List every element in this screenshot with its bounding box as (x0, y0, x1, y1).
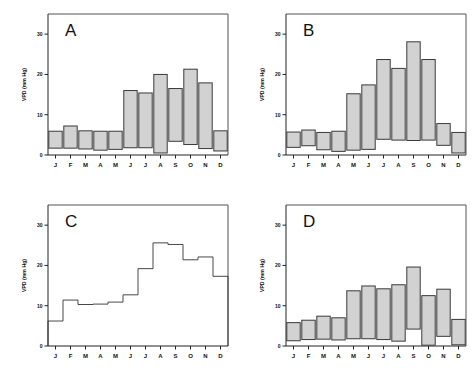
y-tick-label: 10 (37, 112, 43, 118)
x-tick-label-3: A (98, 353, 103, 359)
x-tick-label-0: J (54, 353, 57, 359)
bar-F-1 (64, 126, 77, 148)
x-tick-label-2: M (321, 353, 326, 359)
y-axis-label: VPD (mm Hg) (21, 259, 27, 292)
x-tick-label-2: M (83, 162, 88, 168)
x-tick-label-10: N (203, 162, 207, 168)
bar-J-0 (49, 131, 62, 148)
x-tick-label-3: A (336, 162, 341, 168)
chart-panel-d: 0102030VPD (mm Hg)JFMAMJJASONDD (238, 191, 476, 382)
x-tick-label-8: S (411, 353, 415, 359)
y-tick-label: 0 (40, 152, 43, 158)
y-tick-label: 20 (275, 262, 281, 268)
x-tick-label-5: J (367, 353, 370, 359)
bar-J-6 (377, 60, 390, 140)
y-tick-label: 20 (275, 71, 281, 77)
bar-F-1 (302, 130, 315, 146)
y-tick-label: 0 (278, 343, 281, 349)
bar-S-8 (169, 89, 182, 142)
bar-J-0 (287, 132, 300, 147)
bar-D-11 (452, 319, 465, 344)
figure-vpd-monthly-panels: 0102030VPD (mm Hg)JFMAMJJASONDA 0102030V… (0, 0, 476, 382)
bar-D-11 (214, 131, 227, 151)
bar-N-10 (437, 124, 450, 146)
x-tick-label-7: A (396, 162, 401, 168)
x-tick-label-6: J (382, 353, 385, 359)
x-tick-label-0: J (54, 162, 57, 168)
y-tick-label: 0 (40, 343, 43, 349)
x-tick-label-10: N (441, 353, 445, 359)
x-tick-label-4: M (351, 353, 356, 359)
x-tick-label-3: A (336, 353, 341, 359)
y-tick-label: 10 (275, 112, 281, 118)
y-axis-label: VPD (mm Hg) (259, 68, 265, 101)
bar-M-2 (317, 132, 330, 149)
bar-F-1 (302, 320, 315, 339)
bar-A-3 (94, 131, 107, 150)
bar-M-2 (317, 316, 330, 339)
x-tick-label-10: N (441, 162, 445, 168)
plot-area-a: 0102030VPD (mm Hg)JFMAMJJASONDA (0, 0, 238, 191)
x-tick-label-9: O (426, 353, 431, 359)
x-tick-label-7: A (396, 353, 401, 359)
bar-J-0 (287, 323, 300, 341)
x-tick-label-2: M (321, 162, 326, 168)
x-tick-label-6: J (144, 353, 147, 359)
x-tick-label-9: O (188, 162, 193, 168)
panel-letter-d: D (303, 212, 315, 231)
x-tick-label-11: D (456, 353, 461, 359)
x-tick-label-1: F (307, 162, 311, 168)
bar-A-7 (392, 285, 405, 341)
panel-letter-c: C (65, 212, 77, 231)
bar-O-9 (184, 69, 197, 144)
bar-O-9 (422, 60, 435, 141)
x-tick-label-11: D (456, 162, 461, 168)
y-axis-label: VPD (mm Hg) (259, 259, 265, 292)
x-tick-label-11: D (218, 162, 223, 168)
bar-M-4 (347, 94, 360, 150)
y-tick-label: 30 (37, 31, 43, 37)
y-axis-label: VPD (mm Hg) (21, 68, 27, 101)
x-tick-label-5: J (367, 162, 370, 168)
chart-panel-a: 0102030VPD (mm Hg)JFMAMJJASONDA (0, 0, 238, 191)
bar-J-6 (139, 93, 152, 148)
bar-S-8 (407, 42, 420, 141)
x-tick-label-2: M (83, 353, 88, 359)
bar-M-4 (109, 131, 122, 149)
x-tick-label-7: A (158, 162, 163, 168)
plot-area-b: 0102030VPD (mm Hg)JFMAMJJASONDB (238, 0, 476, 191)
x-tick-label-10: N (203, 353, 207, 359)
bar-A-7 (392, 68, 405, 140)
x-tick-label-8: S (173, 353, 177, 359)
x-tick-label-0: J (292, 162, 295, 168)
bar-M-4 (347, 291, 360, 339)
plot-area-d: 0102030VPD (mm Hg)JFMAMJJASONDD (238, 191, 476, 382)
bar-S-8 (407, 267, 420, 329)
x-tick-label-5: J (129, 353, 132, 359)
bar-M-2 (79, 131, 92, 149)
bar-N-10 (199, 83, 212, 149)
x-tick-label-1: F (307, 353, 311, 359)
chart-panel-c: 0102030VPD (mm Hg)JFMAMJJASONDC (0, 191, 238, 382)
bar-A-3 (332, 131, 345, 151)
y-tick-label: 0 (278, 152, 281, 158)
bar-D-11 (452, 132, 465, 153)
y-tick-label: 20 (37, 262, 43, 268)
x-tick-label-4: M (113, 353, 118, 359)
x-tick-label-8: S (411, 162, 415, 168)
y-tick-label: 10 (37, 303, 43, 309)
bar-A-3 (332, 318, 345, 340)
x-tick-label-4: M (113, 162, 118, 168)
y-tick-label: 10 (275, 303, 281, 309)
panel-letter-a: A (65, 21, 77, 40)
y-tick-label: 30 (37, 222, 43, 228)
bar-J-5 (124, 91, 137, 148)
plot-area-c: 0102030VPD (mm Hg)JFMAMJJASONDC (0, 191, 238, 382)
bar-J-5 (362, 85, 375, 149)
bar-J-6 (377, 289, 390, 340)
x-tick-label-1: F (69, 353, 73, 359)
x-tick-label-4: M (351, 162, 356, 168)
x-tick-label-11: D (218, 353, 223, 359)
y-tick-label: 30 (275, 31, 281, 37)
y-tick-label: 30 (275, 222, 281, 228)
